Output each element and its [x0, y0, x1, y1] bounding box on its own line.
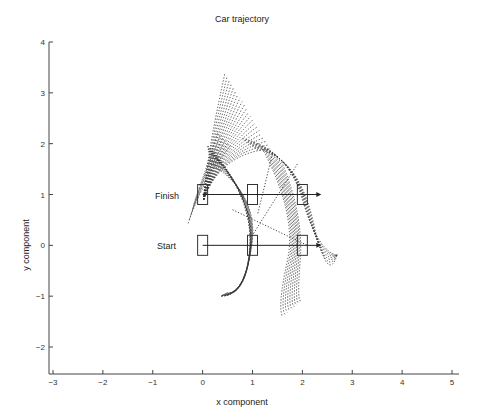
x-tick-label: 5	[450, 378, 455, 387]
trajectory-path	[265, 150, 291, 314]
trajectory-path	[211, 164, 253, 293]
trajectory-path	[262, 149, 289, 317]
x-tick-label: 4	[400, 378, 405, 387]
trajectory-path	[245, 140, 337, 255]
x-axis-label: x component	[0, 397, 484, 407]
x-tick-label: 0	[200, 378, 205, 387]
y-tick-label: 4	[41, 38, 46, 47]
x-tick-label: 1	[250, 378, 255, 387]
trajectory-path	[272, 155, 295, 308]
trajectory-path	[204, 112, 249, 199]
finish-label: Finish	[155, 191, 179, 201]
x-tick-label: −2	[98, 378, 108, 387]
y-tick-label: 0	[41, 241, 46, 250]
trajectory-path	[204, 134, 262, 199]
x-tick-label: −3	[48, 378, 58, 387]
arrow-head-icon	[316, 192, 321, 197]
chart-canvas: −2−101234−3−2−1012345	[0, 0, 484, 419]
trajectory-path	[204, 94, 238, 199]
trajectory-path	[204, 73, 225, 200]
y-tick-label: 1	[41, 191, 46, 200]
trajectory-path	[204, 127, 258, 200]
y-tick-label: −1	[36, 292, 46, 301]
trajectory-path	[209, 151, 251, 295]
x-tick-label: −1	[148, 378, 158, 387]
trajectory-path	[257, 154, 272, 215]
y-axis-label: y component	[21, 205, 31, 285]
x-tick-label: 3	[350, 378, 355, 387]
chart-title: Car trajectory	[0, 14, 484, 24]
x-tick-label: 2	[300, 378, 305, 387]
start-label: Start	[157, 241, 176, 251]
y-tick-label: 3	[41, 89, 46, 98]
y-tick-label: 2	[41, 140, 46, 149]
y-tick-label: −2	[36, 343, 46, 352]
